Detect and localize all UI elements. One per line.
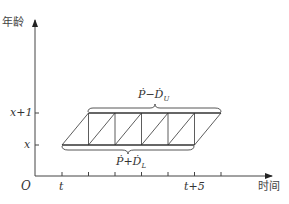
lexis-diagram: 年龄 时间 O x+1 x t t+5 Ṗ−ḊU Ṗ+ḊL [0,0,289,204]
y-axis-label: 年龄 [2,17,24,28]
x-ticks [62,172,221,176]
lower-formula-sub: L [141,162,146,170]
cohort-parallelogram [62,113,221,145]
upper-brace-label: Ṗ−ḊU [138,89,169,103]
upper-formula-base: Ṗ−Ḋ [138,88,163,101]
y-tick-label-upper: x+1 [10,107,32,118]
lower-brace [62,146,194,154]
y-ticks [35,113,39,145]
x-axis-label: 时间 [258,181,280,192]
lower-brace-label: Ṗ+ḊL [116,156,146,170]
x-tick-label-start: t [59,181,63,192]
lower-formula-base: Ṗ+Ḋ [116,155,141,168]
y-tick-label-lower: x [24,139,30,150]
origin-label: O [21,180,31,192]
upper-formula-sub: U [163,95,169,103]
x-tick-label-end: t+5 [184,181,205,192]
upper-brace [88,104,221,112]
